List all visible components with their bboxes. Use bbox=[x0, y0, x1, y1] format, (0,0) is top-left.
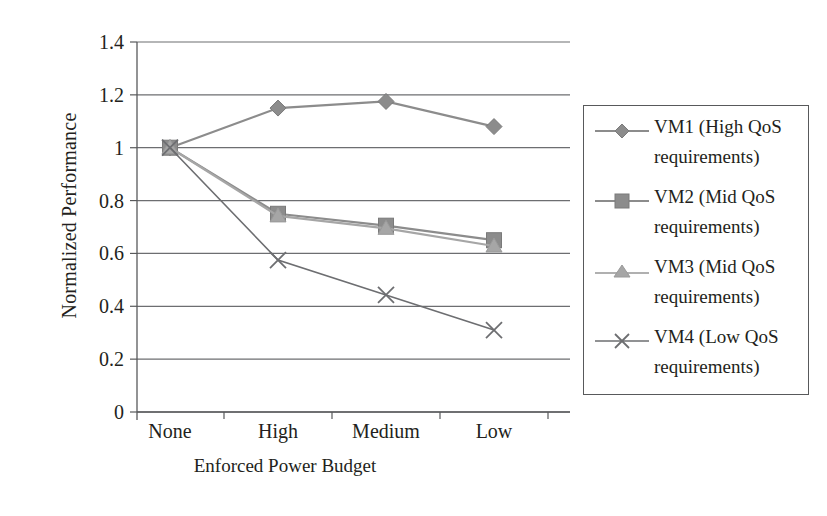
data-point-marker bbox=[378, 93, 394, 109]
data-series bbox=[162, 93, 502, 155]
x-axis-title: Enforced Power Budget bbox=[0, 455, 570, 477]
series-line bbox=[170, 148, 494, 241]
chart-figure: Normalized Performance 1.4 1.2 1 0.8 0.6… bbox=[0, 0, 827, 516]
legend-label-line1: VM4 (Low QoS bbox=[654, 326, 779, 347]
legend-item-vm3[interactable]: VM3 (Mid QoS requirements) bbox=[584, 252, 810, 318]
data-point-marker bbox=[486, 119, 502, 135]
legend-marker-square-icon bbox=[593, 191, 651, 211]
legend-marker-x-icon bbox=[593, 331, 651, 351]
legend-label-line1: VM3 (Mid QoS bbox=[654, 256, 775, 277]
legend-item-vm2[interactable]: VM2 (Mid QoS requirements) bbox=[584, 182, 810, 248]
chart-legend[interactable]: VM1 (High QoS requirements) VM2 (Mid QoS… bbox=[583, 105, 809, 395]
legend-label-line1: VM2 (Mid QoS bbox=[654, 186, 775, 207]
legend-marker-triangle-icon bbox=[593, 261, 651, 281]
data-series-layer bbox=[162, 93, 502, 338]
x-axis-ticks bbox=[224, 412, 548, 419]
series-line bbox=[170, 101, 494, 147]
legend-label-line2: requirements) bbox=[654, 352, 804, 382]
data-point-marker bbox=[486, 322, 502, 338]
legend-label-line1: VM1 (High QoS bbox=[654, 116, 782, 137]
legend-label-line2: requirements) bbox=[654, 142, 804, 172]
legend-label-line2: requirements) bbox=[654, 282, 804, 312]
x-tick-label-low: Low bbox=[424, 420, 564, 443]
legend-label-vm4: VM4 (Low QoS requirements) bbox=[654, 322, 804, 382]
series-line bbox=[170, 148, 494, 246]
data-point-marker bbox=[270, 252, 286, 268]
legend-item-vm4[interactable]: VM4 (Low QoS requirements) bbox=[584, 322, 810, 388]
axis-lines bbox=[130, 42, 570, 420]
legend-label-vm2: VM2 (Mid QoS requirements) bbox=[654, 182, 804, 242]
gridlines bbox=[137, 42, 570, 412]
data-point-marker bbox=[378, 287, 394, 303]
legend-item-vm1[interactable]: VM1 (High QoS requirements) bbox=[584, 112, 810, 178]
data-point-marker bbox=[270, 100, 286, 116]
legend-label-vm1: VM1 (High QoS requirements) bbox=[654, 112, 804, 172]
data-series bbox=[163, 140, 502, 248]
legend-label-line2: requirements) bbox=[654, 212, 804, 242]
legend-label-vm3: VM3 (Mid QoS requirements) bbox=[654, 252, 804, 312]
legend-marker-diamond-icon bbox=[593, 121, 651, 141]
